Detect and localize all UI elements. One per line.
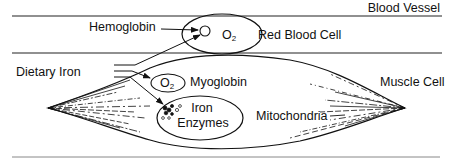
dietary-iron-label: Dietary Iron xyxy=(16,65,81,79)
flow-to-hemoglobin xyxy=(114,35,200,65)
myoglobin-label: Myoglobin xyxy=(190,75,247,89)
iron-enzymes-label-line2: Enzymes xyxy=(177,116,228,130)
hemoglobin-arrow xyxy=(161,29,198,30)
mitochondria-label: Mitochondria xyxy=(256,109,328,123)
blood-vessel-label: Blood Vessel xyxy=(368,1,440,15)
hemoglobin-label: Hemoglobin xyxy=(89,20,156,34)
red-blood-cell: O2 xyxy=(182,14,262,54)
hemoglobin-circle xyxy=(200,26,210,36)
myoglobin: O2 xyxy=(151,74,185,92)
dietary-iron-flows xyxy=(114,35,200,104)
iron-flow-diagram: Blood Vessel O2 Red Blood Cell Hemoglobi… xyxy=(0,0,452,163)
rbc-o2-label: O2 xyxy=(222,28,237,43)
muscle-cell-label: Muscle Cell xyxy=(380,75,445,89)
myoglobin-o2-label: O2 xyxy=(160,76,175,91)
mitochondrion: Iron Enzymes xyxy=(157,96,243,140)
mitochondria-leader xyxy=(330,115,345,116)
red-blood-cell-label: Red Blood Cell xyxy=(258,28,341,42)
iron-enzymes-label-line1: Iron xyxy=(191,101,213,115)
